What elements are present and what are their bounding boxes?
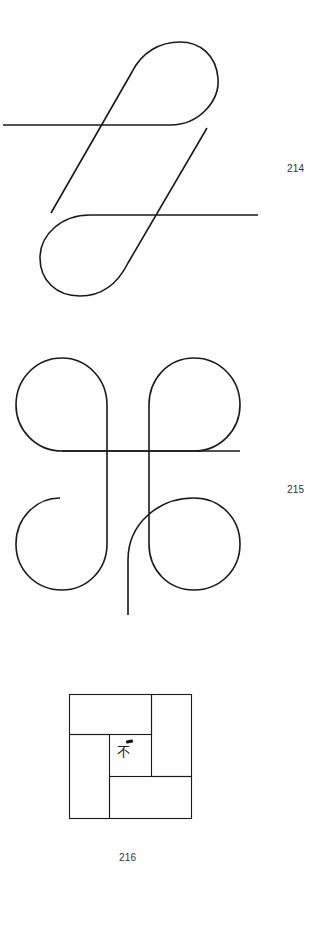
figure-216-left-rect [70, 735, 110, 819]
figure-216-right-rect [152, 695, 192, 777]
figure-216-top-rect [70, 695, 152, 735]
figure-216-drawing [0, 0, 331, 938]
figure-216-center-mark: 不 [117, 741, 130, 760]
figure-216-bottom-rect [110, 777, 192, 819]
figure-216-label: 216 [119, 852, 136, 863]
document-page: 214 215 不 216 [0, 0, 331, 938]
